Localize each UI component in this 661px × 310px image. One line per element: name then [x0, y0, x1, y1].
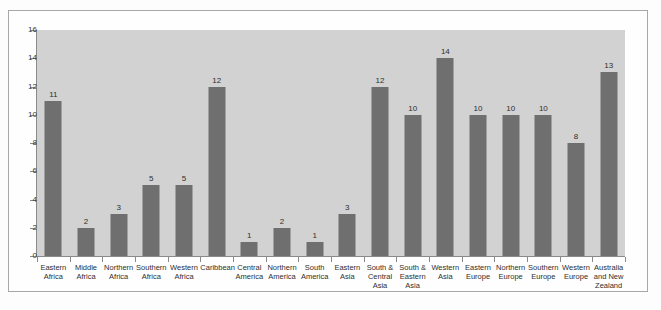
bar-slot: 1: [233, 30, 266, 256]
x-axis-category-label: South America: [298, 263, 331, 281]
bar-slot: 10: [527, 30, 560, 256]
bar: [208, 87, 225, 257]
bar: [404, 115, 421, 256]
x-axis-tick: [462, 257, 463, 262]
x-axis-tick: [266, 257, 267, 262]
x-axis-category-label: Eastern Asia: [331, 263, 364, 281]
bar-value-label: 3: [116, 204, 120, 212]
bar-slot: 14: [429, 30, 462, 256]
bar-slot: 10: [396, 30, 429, 256]
bar-slot: 2: [70, 30, 103, 256]
x-axis-tick: [527, 257, 528, 262]
x-axis-tick: [168, 257, 169, 262]
x-axis-tick: [70, 257, 71, 262]
x-axis-tick: [37, 257, 38, 262]
bar-slot: 2: [266, 30, 299, 256]
bar-slot: 12: [364, 30, 397, 256]
x-axis-category-label: Eastern Europe: [462, 263, 495, 281]
bar: [339, 214, 356, 256]
bar-value-label: 1: [247, 232, 251, 240]
bar-slot: 5: [135, 30, 168, 256]
x-axis-category-label: Australia and New Zealand: [592, 263, 625, 290]
x-axis-tick: [429, 257, 430, 262]
x-axis-ticks: [37, 257, 625, 262]
x-axis-tick: [560, 257, 561, 262]
y-axis-tick-label: 12: [11, 83, 37, 91]
bar: [77, 228, 94, 256]
bar: [469, 115, 486, 256]
bar: [437, 58, 454, 256]
bar-slot: 5: [168, 30, 201, 256]
x-axis-category-label: Middle Africa: [70, 263, 103, 281]
bar-value-label: 14: [441, 48, 450, 56]
y-axis-tick-label: 2: [11, 224, 37, 232]
x-axis-tick: [331, 257, 332, 262]
x-axis-category-label: Southern Europe: [527, 263, 560, 281]
x-axis-category-label: Central America: [233, 263, 266, 281]
bar-value-label: 2: [280, 218, 284, 226]
x-axis-labels: Eastern AfricaMiddle AfricaNorthern Afri…: [37, 263, 625, 299]
x-axis-category-label: Western Africa: [168, 263, 201, 281]
y-axis: 0246810121416: [0, 0, 37, 310]
bar-value-label: 10: [506, 105, 515, 113]
bar-slot: 11: [37, 30, 70, 256]
bar-value-label: 12: [212, 77, 221, 85]
y-axis-tick-label: 8: [11, 139, 37, 147]
bar-slot: 3: [331, 30, 364, 256]
bar-value-label: 10: [408, 105, 417, 113]
bar: [306, 242, 323, 256]
bar-slot: 3: [102, 30, 135, 256]
bar-slot: 1: [298, 30, 331, 256]
bars-layer: 112355121213121014101010813: [37, 30, 625, 256]
x-axis-tick: [625, 257, 626, 262]
bar-slot: 10: [494, 30, 527, 256]
y-axis-tick-label: 4: [11, 196, 37, 204]
y-axis-tick-label: 10: [11, 111, 37, 119]
bar-chart-figure: 0246810121416 11235512121312101410101081…: [0, 0, 661, 310]
bar-slot: 13: [592, 30, 625, 256]
x-axis-category-label: Northern Europe: [494, 263, 527, 281]
bar: [567, 143, 584, 256]
x-axis-category-label: South & Eastern Asia: [396, 263, 429, 290]
bar: [273, 228, 290, 256]
bar-value-label: 5: [182, 175, 186, 183]
x-axis-category-label: Northern America: [266, 263, 299, 281]
x-axis-tick: [364, 257, 365, 262]
x-axis-category-label: South & Central Asia: [364, 263, 397, 290]
x-axis-tick: [200, 257, 201, 262]
y-axis-tick-label: 6: [11, 167, 37, 175]
x-axis-category-label: Western Europe: [560, 263, 593, 281]
bar-value-label: 1: [312, 232, 316, 240]
bar-value-label: 8: [574, 133, 578, 141]
bar: [600, 72, 617, 256]
bar-slot: 10: [462, 30, 495, 256]
x-axis-tick: [396, 257, 397, 262]
bar: [143, 185, 160, 256]
bar: [45, 101, 62, 256]
bar-value-label: 12: [376, 77, 385, 85]
x-axis-tick: [494, 257, 495, 262]
bar: [502, 115, 519, 256]
x-axis-category-label: Caribbean: [200, 263, 233, 272]
bar-value-label: 13: [604, 62, 613, 70]
bar-value-label: 3: [345, 204, 349, 212]
bar-value-label: 10: [539, 105, 548, 113]
x-axis-tick: [102, 257, 103, 262]
x-axis-tick: [298, 257, 299, 262]
bar: [175, 185, 192, 256]
bar-value-label: 10: [474, 105, 483, 113]
y-axis-tick-label: 16: [11, 26, 37, 34]
x-axis-category-label: Western Asia: [429, 263, 462, 281]
bar: [110, 214, 127, 256]
y-axis-tick-label: 0: [11, 252, 37, 260]
x-axis-category-label: Northern Africa: [102, 263, 135, 281]
bar-value-label: 11: [49, 91, 57, 99]
bar-slot: 8: [560, 30, 593, 256]
x-axis-category-label: Eastern Africa: [37, 263, 70, 281]
x-axis-category-label: Southern Africa: [135, 263, 168, 281]
bar-value-label: 5: [149, 175, 153, 183]
bar: [535, 115, 552, 256]
x-axis-tick: [135, 257, 136, 262]
bar: [371, 87, 388, 257]
y-axis-tick-label: 14: [11, 54, 37, 62]
